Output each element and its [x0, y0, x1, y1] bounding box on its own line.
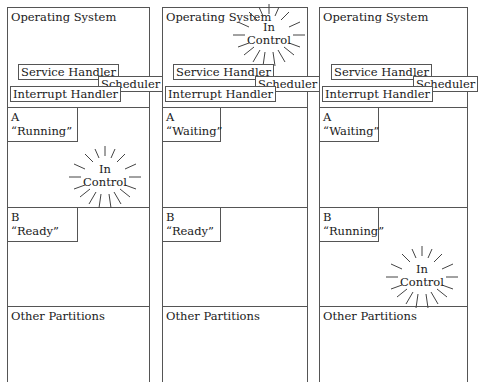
process-a-label: A “Running” [8, 108, 78, 142]
memory-column-2: Operating System [162, 7, 308, 382]
process-a-label: A “Waiting” [163, 108, 221, 142]
other-partitions-title: Other Partitions [11, 309, 105, 323]
process-a-partition: A “Waiting” [320, 108, 467, 208]
process-b-partition: B “Ready” [163, 208, 307, 307]
interrupt-handler-box: Interrupt Handler [10, 86, 121, 102]
process-a-partition: A “Waiting” [163, 108, 307, 208]
process-b-state: “Running” [323, 224, 378, 238]
process-b-label: B “Ready” [163, 208, 221, 242]
memory-column-3: Operating System Service Handler Schedul… [319, 7, 468, 382]
process-b-partition: B “Running” [320, 208, 467, 307]
process-a-partition: A “Running” [8, 108, 149, 208]
other-partitions: Other Partitions [320, 307, 467, 382]
interrupt-handler-box: Interrupt Handler [165, 86, 276, 102]
process-a-state: “Waiting” [323, 124, 378, 138]
os-title: Operating System [323, 10, 428, 24]
in-control-starburst: In Control [385, 244, 459, 310]
process-a-label: A “Waiting” [320, 108, 379, 142]
os-partition: Operating System Service Handler Schedul… [8, 8, 149, 108]
process-a-name: A [166, 110, 220, 124]
process-a-name: A [323, 110, 378, 124]
process-b-name: B [11, 210, 77, 224]
os-title: Operating System [11, 10, 116, 24]
process-a-name: A [11, 110, 77, 124]
other-partitions-title: Other Partitions [323, 309, 417, 323]
os-partition: Operating System [163, 8, 307, 108]
memory-column-1: Operating System Service Handler Schedul… [7, 7, 150, 382]
process-a-state: “Running” [11, 124, 77, 138]
in-control-starburst: In Control [68, 144, 142, 210]
process-b-partition: B “Ready” [8, 208, 149, 307]
other-partitions: Other Partitions [8, 307, 149, 382]
other-partitions: Other Partitions [163, 307, 307, 382]
in-control-line2: Control [385, 276, 459, 289]
other-partitions-title: Other Partitions [166, 309, 260, 323]
process-b-name: B [323, 210, 378, 224]
in-control-line2: Control [232, 34, 306, 47]
process-b-name: B [166, 210, 220, 224]
process-b-state: “Ready” [166, 224, 220, 238]
in-control-line2: Control [68, 176, 142, 189]
process-a-state: “Waiting” [166, 124, 220, 138]
in-control-starburst: In Control [232, 2, 306, 68]
process-b-state: “Ready” [11, 224, 77, 238]
process-b-label: B “Running” [320, 208, 379, 242]
interrupt-handler-box: Interrupt Handler [322, 86, 433, 102]
process-b-label: B “Ready” [8, 208, 78, 242]
os-partition: Operating System Service Handler Schedul… [320, 8, 467, 108]
